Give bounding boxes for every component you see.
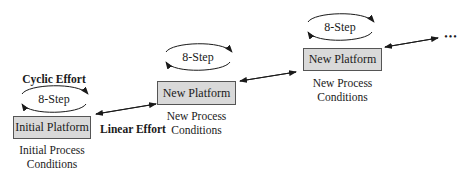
new-platform-box: New Platform: [157, 81, 236, 105]
conditions-line: Conditions: [303, 90, 382, 104]
new-platform-box: New Platform: [303, 48, 382, 71]
conditions-line: Conditions: [13, 157, 91, 171]
conditions-line: Conditions: [157, 123, 236, 137]
initial-platform-box: Initial Platform: [13, 116, 91, 139]
linear-arrow-icon: [240, 72, 296, 81]
cyclic-effort-label: Cyclic Effort: [19, 72, 89, 86]
cycle-step-label: 8-Step: [320, 20, 360, 35]
cycle-step-label: 8-Step: [34, 92, 74, 107]
linear-arrow-icon: [96, 104, 156, 114]
conditions-line: Initial Process: [13, 143, 91, 157]
process-conditions-label: New Process Conditions: [157, 109, 236, 137]
conditions-line: New Process: [157, 109, 236, 123]
conditions-line: New Process: [303, 76, 382, 90]
cycle-step-label: 8-Step: [178, 50, 218, 65]
linear-arrow-icon: [385, 38, 438, 47]
process-conditions-label: Initial Process Conditions: [13, 143, 91, 171]
process-conditions-label: New Process Conditions: [303, 76, 382, 104]
continuation-ellipsis: •••: [440, 30, 462, 44]
